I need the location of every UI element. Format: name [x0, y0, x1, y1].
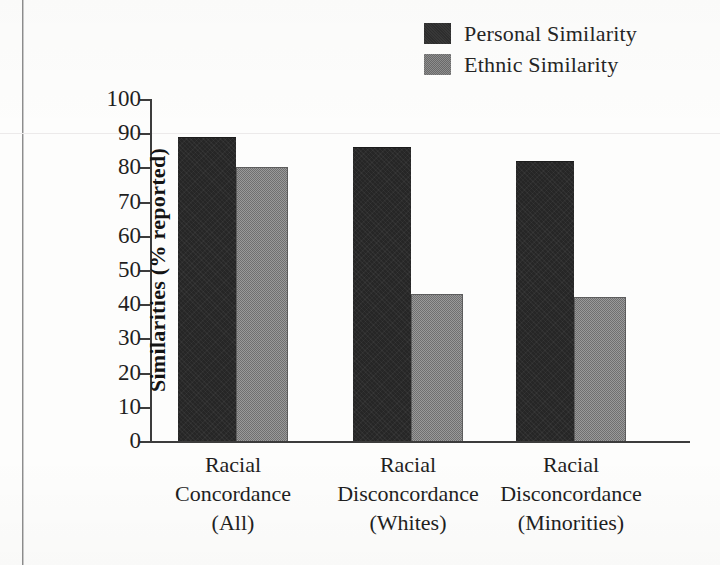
bar-personal-group-3 — [516, 161, 574, 441]
legend-item-ethnic-similarity: Ethnic Similarity — [424, 49, 637, 80]
category-label-line: Racial — [466, 450, 676, 479]
x-axis-line — [150, 441, 690, 443]
y-axis-tick-label: 80 — [118, 154, 141, 180]
legend-item-personal-similarity: Personal Similarity — [424, 18, 637, 49]
y-axis-tick-mark — [140, 441, 151, 443]
y-axis-tick-label: 50 — [118, 257, 141, 283]
y-axis-tick-label: 30 — [118, 325, 141, 351]
y-axis-tick-mark — [140, 373, 151, 375]
figure-page: Personal Similarity Ethnic Similarity Si… — [0, 0, 720, 565]
y-axis-tick-mark — [140, 99, 151, 101]
chart-legend: Personal Similarity Ethnic Similarity — [424, 18, 637, 80]
bar-ethnic-group-3 — [574, 297, 626, 441]
y-axis-tick-mark — [140, 133, 151, 135]
plot-area: Similarities (% reported) 01020304050607… — [150, 99, 690, 441]
legend-swatch-dark-square-icon — [424, 23, 451, 44]
y-axis-tick-mark — [140, 270, 151, 272]
legend-label-ethnic-similarity: Ethnic Similarity — [464, 52, 618, 78]
y-axis-tick-label: 60 — [118, 223, 141, 249]
x-axis-category-labels: RacialConcordance(All)RacialDisconcordan… — [150, 450, 690, 550]
y-axis-tick-label: 100 — [107, 86, 142, 112]
bar-personal-group-1 — [178, 137, 236, 441]
scan-page-edge-shadow — [23, 0, 24, 565]
x-axis-category-label-3: RacialDisconcordance(Minorities) — [466, 450, 676, 537]
y-axis-tick-mark — [140, 167, 151, 169]
y-axis-tick-mark — [140, 304, 151, 306]
bar-ethnic-group-2 — [411, 294, 463, 441]
bar-personal-group-2 — [353, 147, 411, 441]
legend-swatch-gray-square-icon — [424, 54, 451, 75]
legend-label-personal-similarity: Personal Similarity — [464, 21, 637, 47]
y-axis-tick-mark — [140, 407, 151, 409]
y-axis-tick-label: 40 — [118, 291, 141, 317]
y-axis-tick-mark — [140, 338, 151, 340]
y-axis-tick-label: 20 — [118, 360, 141, 386]
y-axis-tick-mark — [140, 202, 151, 204]
y-axis-tick-label: 10 — [118, 394, 141, 420]
category-label-line: Disconcordance — [466, 479, 676, 508]
y-axis-tick-mark — [140, 236, 151, 238]
bar-ethnic-group-1 — [236, 167, 288, 441]
category-label-line: (Minorities) — [466, 508, 676, 537]
y-axis-tick-label: 70 — [118, 189, 141, 215]
y-axis-tick-label: 90 — [118, 120, 141, 146]
